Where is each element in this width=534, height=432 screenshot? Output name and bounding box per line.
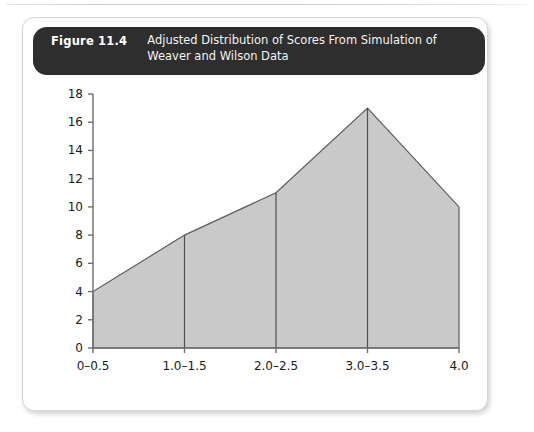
x-tick-label: 4.0	[449, 359, 468, 373]
chart-svg: 0246810121416180–0.51.0–1.52.0–2.53.0–3.…	[33, 80, 477, 400]
y-tick-label: 12	[68, 172, 83, 186]
y-tick-label: 6	[75, 256, 83, 270]
figure-caption-bar: Figure 11.4 Adjusted Distribution of Sco…	[33, 27, 485, 75]
figure-number-label: Figure 11.4	[51, 33, 127, 48]
y-tick-label: 4	[75, 285, 83, 299]
x-tick-label: 0–0.5	[77, 359, 110, 373]
y-tick-label: 8	[75, 228, 83, 242]
y-tick-label: 14	[68, 143, 83, 157]
y-tick-label: 2	[75, 313, 83, 327]
y-tick-label: 18	[68, 87, 83, 101]
y-tick-label: 0	[75, 341, 83, 355]
x-tick-label: 1.0–1.5	[162, 359, 206, 373]
x-tick-label: 3.0–3.5	[345, 359, 389, 373]
y-tick-label: 16	[68, 115, 83, 129]
x-tick-label: 2.0–2.5	[254, 359, 298, 373]
frequency-polygon-chart: 0246810121416180–0.51.0–1.52.0–2.53.0–3.…	[33, 80, 477, 400]
figure-title-text: Adjusted Distribution of Scores From Sim…	[147, 33, 471, 64]
y-tick-label: 10	[68, 200, 83, 214]
page-top-rule	[6, 4, 528, 5]
figure-card: Figure 11.4 Adjusted Distribution of Sco…	[22, 17, 488, 411]
